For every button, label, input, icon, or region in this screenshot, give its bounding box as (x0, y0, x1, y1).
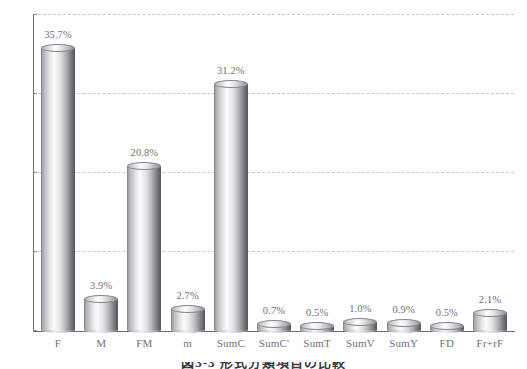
bar-top-ellipse (300, 322, 334, 330)
bar-value-label: 0.7% (263, 305, 285, 316)
bar-value-label: 0.5% (436, 307, 458, 318)
bar[interactable] (127, 166, 161, 330)
x-tick-label: Fr+rF (459, 337, 521, 349)
bar[interactable] (473, 313, 507, 330)
plot-area: 35.7%3.9%20.8%2.7%31.2%0.7%0.5%1.0%0.9%0… (33, 14, 514, 330)
bar-column[interactable]: 2.7% (167, 14, 209, 330)
bar-column[interactable]: 2.1% (469, 14, 511, 330)
bar-value-label: 2.1% (479, 294, 501, 305)
y-tick-mark (33, 172, 37, 173)
bar-top-ellipse (387, 319, 421, 327)
bar[interactable] (387, 323, 421, 330)
bar-value-label: 3.9% (90, 280, 112, 291)
y-tick-mark (33, 330, 37, 331)
bar-value-label: 31.2% (217, 65, 245, 76)
bar-value-label: 0.5% (306, 307, 328, 318)
bar-top-ellipse (41, 44, 75, 52)
figure-caption-text: 図3-3 形式分類項目の比較 (0, 362, 527, 369)
bar[interactable] (84, 299, 118, 330)
bar-column[interactable]: 3.9% (80, 14, 122, 330)
bar-value-label: 0.9% (392, 304, 414, 315)
bar-column[interactable]: 31.2% (210, 14, 252, 330)
figure-caption: 図3-3 形式分類項目の比較 (0, 362, 527, 369)
bar-column[interactable]: 0.7% (253, 14, 295, 330)
bar-value-label: 1.0% (349, 303, 371, 314)
bar[interactable] (257, 324, 291, 330)
bar-top-ellipse (257, 320, 291, 328)
bar-chart: 35.7%3.9%20.8%2.7%31.2%0.7%0.5%1.0%0.9%0… (0, 0, 527, 369)
bar-column[interactable]: 35.7% (37, 14, 79, 330)
bar-value-label: 2.7% (176, 290, 198, 301)
bar-column[interactable]: 0.5% (296, 14, 338, 330)
bar-top-ellipse (84, 295, 118, 303)
bar[interactable] (214, 84, 248, 330)
y-tick-mark (33, 251, 37, 252)
y-tick-mark (33, 93, 37, 94)
bar[interactable] (41, 48, 75, 330)
bar[interactable] (171, 309, 205, 330)
bar-value-label: 20.8% (131, 147, 159, 158)
bar-column[interactable]: 1.0% (339, 14, 381, 330)
bar-top-ellipse (214, 80, 248, 88)
bar-top-ellipse (127, 162, 161, 170)
bar-column[interactable]: 0.5% (426, 14, 468, 330)
bar-column[interactable]: 20.8% (123, 14, 165, 330)
bar-top-ellipse (430, 322, 464, 330)
bar[interactable] (343, 322, 377, 330)
bar-value-label: 35.7% (44, 29, 72, 40)
y-tick-mark (33, 14, 37, 15)
bar-column[interactable]: 0.9% (383, 14, 425, 330)
bar-top-ellipse (343, 318, 377, 326)
bar[interactable] (430, 326, 464, 330)
bar[interactable] (300, 326, 334, 330)
bar-series: 35.7%3.9%20.8%2.7%31.2%0.7%0.5%1.0%0.9%0… (33, 14, 514, 330)
bar-top-ellipse (473, 309, 507, 317)
bar-top-ellipse (171, 305, 205, 313)
